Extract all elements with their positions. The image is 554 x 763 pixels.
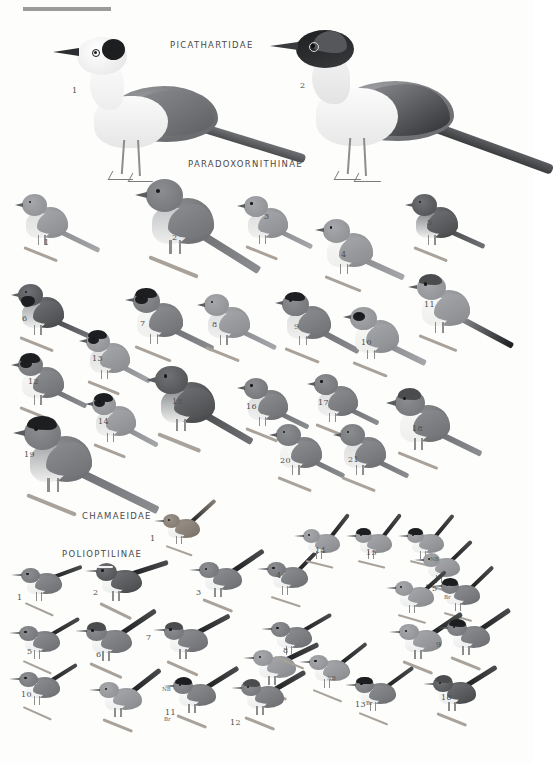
- wing: [33, 301, 65, 324]
- figure-number: 6: [96, 650, 102, 659]
- bird-figure-parrotbill-3: [240, 190, 310, 270]
- bill: [75, 630, 87, 632]
- bill: [85, 570, 97, 572]
- figure-number: 14: [98, 417, 109, 426]
- crown-patch: [398, 388, 422, 399]
- head: [323, 219, 351, 243]
- foot-back: [354, 173, 386, 182]
- bill: [146, 377, 156, 383]
- leg: [114, 708, 115, 717]
- bill: [343, 315, 351, 319]
- bill: [15, 203, 23, 207]
- bill: [275, 301, 283, 305]
- leg-2: [39, 650, 40, 659]
- eye-pupil: [94, 51, 97, 54]
- bird-figure-parrotbill-2: [140, 170, 249, 294]
- plumage-code-label: NB: [430, 556, 439, 562]
- bill: [85, 402, 93, 406]
- leg-2: [184, 419, 186, 431]
- crown-patch: [442, 578, 458, 585]
- leg: [179, 649, 180, 659]
- leg-2: [262, 706, 263, 715]
- crown-patch: [27, 416, 56, 430]
- leg: [38, 235, 39, 244]
- eye: [412, 534, 414, 536]
- bill: [294, 535, 304, 537]
- leg-2: [306, 336, 308, 346]
- figure-number: 2: [172, 233, 178, 242]
- eye: [98, 400, 101, 403]
- head: [395, 581, 413, 596]
- eye: [403, 397, 406, 400]
- perch-branch: [102, 718, 133, 732]
- perch-branch: [246, 245, 278, 260]
- perch-branch: [414, 246, 448, 262]
- head: [314, 374, 338, 395]
- eye: [250, 202, 253, 205]
- eye: [205, 568, 208, 571]
- bird-figure-parrotbill-1: [18, 188, 92, 272]
- bill: [346, 535, 356, 537]
- leg-2: [194, 704, 195, 713]
- leg-2: [468, 646, 469, 655]
- leg-2: [185, 649, 186, 659]
- breast-spots: [281, 438, 295, 453]
- plumage-code-label: NB: [162, 686, 171, 692]
- perch-branch: [278, 476, 312, 492]
- bill: [197, 303, 205, 307]
- leg-2: [181, 536, 182, 544]
- leg-2: [41, 592, 42, 601]
- leg: [448, 702, 449, 711]
- leg-2: [298, 465, 299, 474]
- bill: [333, 433, 341, 437]
- leg: [356, 465, 357, 474]
- leg-2: [374, 350, 376, 360]
- bill: [270, 42, 298, 50]
- eye: [439, 682, 442, 685]
- figure-number: 15: [172, 397, 183, 406]
- leg-2: [454, 702, 455, 711]
- bill: [389, 631, 400, 633]
- crown-patch: [175, 677, 192, 685]
- leg: [36, 592, 37, 601]
- leg: [428, 235, 429, 244]
- perch-branch: [176, 714, 207, 728]
- eye: [164, 374, 168, 378]
- head: [163, 514, 180, 528]
- crown-patch: [356, 528, 371, 535]
- crown-patch: [356, 677, 373, 685]
- tail: [432, 122, 554, 174]
- leg-2: [39, 696, 40, 705]
- bill: [315, 228, 324, 232]
- bird-figure-gnatcatcher-3: [196, 552, 270, 616]
- figure-number: 6: [22, 314, 28, 323]
- leg-2: [347, 264, 349, 274]
- figure-number: 14: [315, 546, 326, 555]
- leg: [299, 336, 301, 346]
- plumage-code-label: Br: [444, 594, 451, 600]
- eye: [308, 534, 310, 536]
- bill: [9, 632, 20, 634]
- crown-patch: [408, 528, 423, 535]
- bill: [189, 569, 200, 571]
- figure-number: 7: [146, 633, 152, 642]
- wing: [355, 441, 387, 464]
- bird-figure-parrotbill-9: [278, 286, 355, 374]
- bill: [135, 192, 147, 198]
- figure-number: 3: [196, 588, 202, 597]
- figure-number: 8: [212, 320, 218, 329]
- crown-patch: [449, 619, 466, 627]
- bird-figure-parrotbill-15: [150, 358, 245, 466]
- figure-number: 2: [93, 588, 99, 597]
- leg-2: [40, 325, 41, 334]
- perch-branch: [157, 432, 201, 452]
- bill: [299, 661, 310, 663]
- eye: [453, 626, 456, 629]
- eye: [169, 628, 172, 631]
- wing: [291, 441, 323, 464]
- leg: [220, 335, 221, 344]
- figure-number: 17: [318, 398, 329, 407]
- perch-branch: [202, 598, 233, 612]
- figure-number: 1: [44, 238, 50, 247]
- plumage-code-label: Br: [366, 700, 373, 706]
